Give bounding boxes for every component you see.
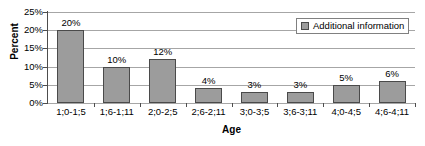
x-tick-mark: [140, 103, 141, 107]
y-tick-mark: [43, 85, 47, 86]
x-tick-mark: [232, 103, 233, 107]
bar[interactable]: [195, 88, 222, 103]
x-tick-mark: [94, 103, 95, 107]
x-tick-mark: [415, 103, 416, 107]
bar[interactable]: [103, 67, 130, 103]
y-tick-mark: [43, 103, 47, 104]
bar-value-label: 4%: [184, 76, 234, 86]
chart-legend: Additional information: [296, 18, 409, 34]
x-tick-mark: [186, 103, 187, 107]
bar-value-label: 20%: [46, 18, 96, 28]
bar[interactable]: [379, 81, 406, 103]
bar[interactable]: [333, 85, 360, 103]
bar-value-label: 12%: [138, 47, 188, 57]
bar[interactable]: [287, 92, 314, 103]
bar[interactable]: [149, 59, 176, 103]
bar-value-label: 3%: [275, 80, 325, 90]
y-tick-label: 10%: [3, 62, 43, 72]
y-tick-mark: [43, 48, 47, 49]
y-tick-label: 20%: [3, 25, 43, 35]
y-tick-mark: [43, 30, 47, 31]
bar-value-label: 6%: [367, 69, 417, 79]
x-axis-tick-labels: 1;0-1;51;6-1;112;0-2;52;6-2;113;0-3;53;6…: [48, 107, 415, 121]
y-tick-mark: [43, 12, 47, 13]
y-tick-label: 25%: [3, 7, 43, 17]
bar-value-label: 10%: [92, 55, 142, 65]
bar-chart: Percent 0%5%10%15%20%25% 20%10%12%4%3%3%…: [0, 0, 425, 146]
y-axis-tick-labels: 0%5%10%15%20%25%: [0, 0, 43, 146]
bar-value-label: 3%: [229, 80, 279, 90]
bar[interactable]: [241, 92, 268, 103]
x-tick-label: 4;6-4;11: [362, 107, 422, 117]
x-tick-mark: [369, 103, 370, 107]
x-tick-mark: [323, 103, 324, 107]
legend-swatch-icon: [301, 22, 309, 30]
x-tick-mark: [277, 103, 278, 107]
x-axis-title: Age: [48, 124, 415, 135]
bar-value-label: 5%: [321, 73, 371, 83]
legend-label: Additional information: [313, 21, 404, 31]
gridline: [48, 48, 415, 49]
y-tick-mark: [43, 67, 47, 68]
y-tick-label: 0%: [3, 98, 43, 108]
y-tick-label: 5%: [3, 80, 43, 90]
y-tick-label: 15%: [3, 43, 43, 53]
bar[interactable]: [57, 30, 84, 103]
gridline: [48, 12, 415, 13]
